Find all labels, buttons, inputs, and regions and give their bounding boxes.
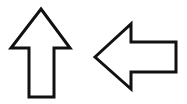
arrows-svg xyxy=(0,0,187,104)
arrow-canvas xyxy=(0,0,187,104)
